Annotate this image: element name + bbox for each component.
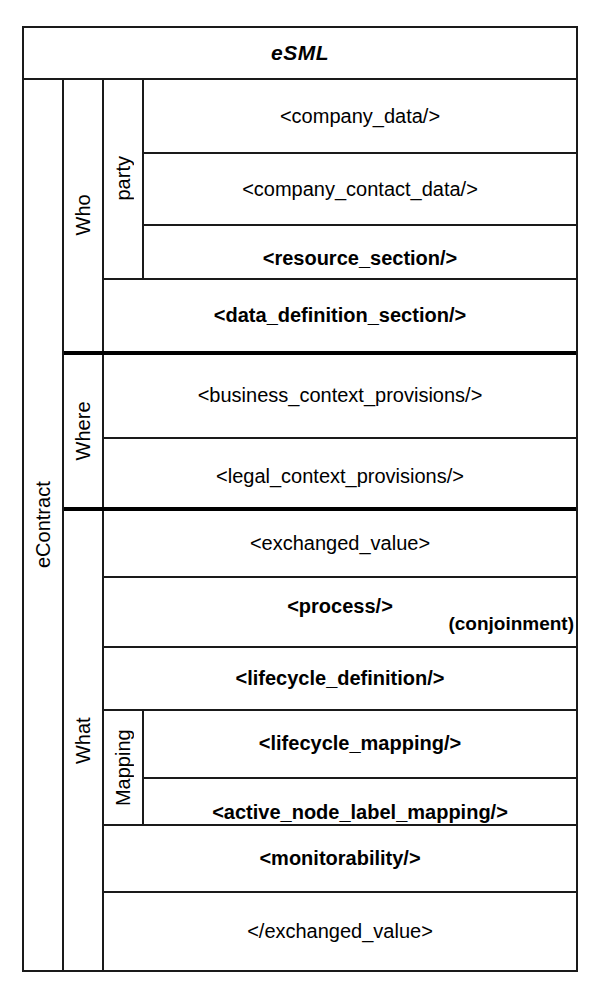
row-lifecycle-mapping: <lifecycle_mapping/> <box>144 711 576 779</box>
section-where: Where <business_context_provisions/> <le… <box>64 355 576 511</box>
row-legal-context-provisions: <legal_context_provisions/> <box>104 439 576 515</box>
mapping-label: Mapping <box>104 711 142 824</box>
econtract-column: eContract <box>24 80 64 970</box>
process-annotation: (conjoinment) <box>104 614 576 633</box>
esml-econtract-diagram: eSML eContract Who party <box>22 26 578 972</box>
mapping-subgroup: Mapping <lifecycle_mapping/> <active_nod… <box>104 711 576 826</box>
row-data-definition-section: <data_definition_section/> <box>104 280 576 351</box>
row-exchanged-value-open: <exchanged_value> <box>104 511 576 578</box>
what-label: What <box>64 511 102 970</box>
where-label: Where <box>64 355 102 507</box>
econtract-label: eContract <box>24 80 62 970</box>
who-rows: party <company_data/> <company_contact_d… <box>104 80 576 351</box>
party-label: party <box>104 80 142 278</box>
row-monitorability: <monitorability/> <box>104 826 576 893</box>
what-column: What <box>64 511 104 970</box>
row-business-context-provisions: <business_context_provisions/> <box>104 355 576 439</box>
section-who: Who party <company_data/> <company_conta… <box>64 80 576 355</box>
mapping-rows: <lifecycle_mapping/> <active_node_label_… <box>144 711 576 824</box>
what-rows: <exchanged_value> <process/> (conjoinmen… <box>104 511 576 970</box>
sections-container: Who party <company_data/> <company_conta… <box>64 80 576 970</box>
mapping-column: Mapping <box>104 711 144 824</box>
row-company-data: <company_data/> <box>144 80 576 154</box>
diagram-body: eContract Who party <company_data/> <box>24 80 576 970</box>
party-column: party <box>104 80 144 278</box>
row-company-contact-data: <company_contact_data/> <box>144 154 576 226</box>
row-process: <process/> (conjoinment) <box>104 578 576 648</box>
who-column: Who <box>64 80 104 351</box>
who-label: Who <box>64 80 102 351</box>
party-rows: <company_data/> <company_contact_data/> … <box>144 80 576 278</box>
row-lifecycle-definition: <lifecycle_definition/> <box>104 648 576 711</box>
diagram-header: eSML <box>24 28 576 80</box>
diagram-title: eSML <box>271 41 329 65</box>
where-rows: <business_context_provisions/> <legal_co… <box>104 355 576 507</box>
where-column: Where <box>64 355 104 507</box>
section-what: What <exchanged_value> <process/> (conjo… <box>64 511 576 970</box>
row-exchanged-value-close: </exchanged_value> <box>104 893 576 970</box>
party-subgroup: party <company_data/> <company_contact_d… <box>104 80 576 280</box>
